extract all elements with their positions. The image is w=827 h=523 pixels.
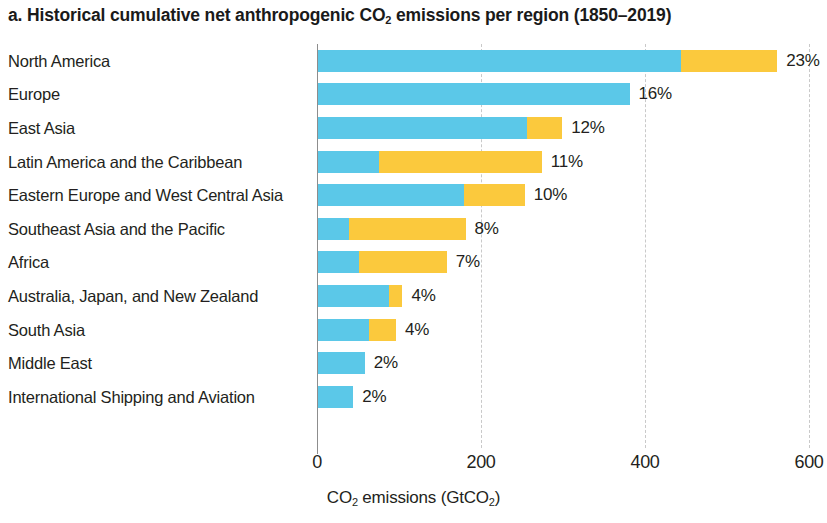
bar-value-label: 10% xyxy=(534,185,567,205)
bar-value-label: 8% xyxy=(475,219,499,239)
x-axis-title-s2: 2 xyxy=(489,496,495,508)
bar-segment-yellow xyxy=(681,50,777,72)
bar-value-label: 23% xyxy=(786,51,819,71)
bar-segment-blue xyxy=(318,386,353,408)
bar-segment-blue xyxy=(318,218,349,240)
stacked-bar xyxy=(318,117,562,139)
bar-row-label: International Shipping and Aviation xyxy=(8,387,255,406)
chart-title-suffix: emissions per region (1850–2019) xyxy=(391,5,671,25)
bar-value-label: 4% xyxy=(411,286,435,306)
chart-figure: a. Historical cumulative net anthropogen… xyxy=(0,0,827,523)
bar-segment-yellow xyxy=(379,151,542,173)
stacked-bar xyxy=(318,251,447,273)
bar-segment-blue xyxy=(318,352,365,374)
bar-row-label: Eastern Europe and West Central Asia xyxy=(8,186,283,205)
x-axis-title-p3: ) xyxy=(495,488,500,507)
bar-row: Middle East2% xyxy=(0,346,827,380)
x-axis-title-p1: CO xyxy=(327,488,352,507)
bar-segment-yellow xyxy=(369,319,396,341)
x-axis-ticks: 0200400600 xyxy=(0,452,827,482)
x-tick-label: 400 xyxy=(630,452,659,473)
bar-row-label: Africa xyxy=(8,253,49,272)
x-tick-label: 600 xyxy=(794,452,823,473)
bar-value-label: 7% xyxy=(456,252,480,272)
bar-segment-yellow xyxy=(359,251,447,273)
stacked-bar xyxy=(318,319,396,341)
bar-row-label: North America xyxy=(8,51,110,70)
stacked-bar xyxy=(318,151,542,173)
chart-title: a. Historical cumulative net anthropogen… xyxy=(8,5,671,26)
stacked-bar xyxy=(318,50,777,72)
bar-row: Europe16% xyxy=(0,78,827,112)
stacked-bar xyxy=(318,184,525,206)
bar-value-label: 16% xyxy=(639,84,672,104)
x-axis-title: CO2 emissions (GtCO2) xyxy=(0,488,827,508)
bar-row: Australia, Japan, and New Zealand4% xyxy=(0,279,827,313)
bar-row-label: Europe xyxy=(8,85,60,104)
bar-segment-blue xyxy=(318,117,527,139)
bar-segment-blue xyxy=(318,83,630,105)
x-tick-label: 200 xyxy=(466,452,495,473)
bar-row: Southeast Asia and the Pacific8% xyxy=(0,212,827,246)
bar-row-label: Latin America and the Caribbean xyxy=(8,152,242,171)
bar-row-label: Southeast Asia and the Pacific xyxy=(8,219,225,238)
bar-row-label: South Asia xyxy=(8,320,85,339)
stacked-bar xyxy=(318,218,466,240)
bar-row-label: Australia, Japan, and New Zealand xyxy=(8,286,258,305)
bar-value-label: 4% xyxy=(405,320,429,340)
x-tick-label: 0 xyxy=(312,452,322,473)
bar-segment-blue xyxy=(318,251,359,273)
bar-segment-yellow xyxy=(389,285,402,307)
bar-row: North America23% xyxy=(0,44,827,78)
bar-row: East Asia12% xyxy=(0,111,827,145)
bar-row: South Asia4% xyxy=(0,313,827,347)
bar-segment-blue xyxy=(318,151,379,173)
stacked-bar xyxy=(318,83,630,105)
bar-row-label: Middle East xyxy=(8,354,92,373)
stacked-bar xyxy=(318,386,353,408)
bar-row: Africa7% xyxy=(0,246,827,280)
bar-value-label: 2% xyxy=(362,387,386,407)
stacked-bar xyxy=(318,352,365,374)
bar-value-label: 12% xyxy=(571,118,604,138)
bar-segment-yellow xyxy=(527,117,562,139)
bar-value-label: 11% xyxy=(551,152,583,172)
bar-segment-blue xyxy=(318,184,464,206)
stacked-bar xyxy=(318,285,402,307)
bar-row: International Shipping and Aviation2% xyxy=(0,380,827,414)
bar-row: Eastern Europe and West Central Asia10% xyxy=(0,178,827,212)
x-axis-title-s1: 2 xyxy=(352,496,358,508)
chart-title-prefix: a. Historical cumulative net anthropogen… xyxy=(8,5,385,25)
bar-row: Latin America and the Caribbean11% xyxy=(0,145,827,179)
bar-segment-blue xyxy=(318,319,369,341)
x-axis-title-p2: emissions (GtCO xyxy=(358,488,489,507)
bar-segment-blue xyxy=(318,285,389,307)
bar-row-label: East Asia xyxy=(8,118,75,137)
bar-segment-blue xyxy=(318,50,681,72)
bar-segment-yellow xyxy=(464,184,525,206)
bar-segment-yellow xyxy=(349,218,465,240)
chart-title-subscript: 2 xyxy=(385,14,391,26)
bar-value-label: 2% xyxy=(374,353,398,373)
